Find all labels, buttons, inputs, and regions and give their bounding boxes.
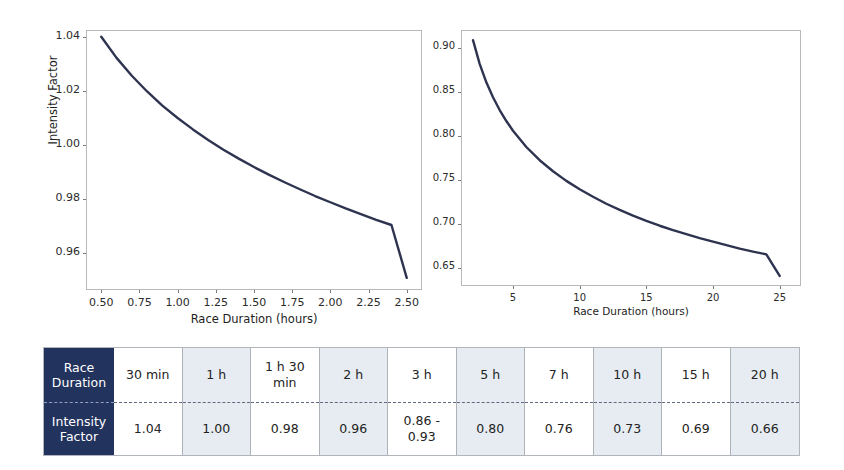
intensity-factor-table: Race DurationIntensity Factor30 min1.041… — [43, 347, 800, 456]
y-axis-title-left: Intensity Factor — [46, 40, 60, 160]
x-tick-mark — [178, 290, 179, 293]
cell-intensity-factor: 0.66 — [731, 402, 800, 456]
x-tick-mark — [646, 286, 647, 289]
x-tick-mark — [216, 290, 217, 293]
cell-intensity-factor: 0.98 — [251, 402, 319, 456]
x-tick-mark — [713, 286, 714, 289]
y-tick-mark — [83, 37, 86, 38]
cell-race-duration: 1 h 30 min — [251, 348, 319, 402]
x-axis-title-left: Race Duration (hours) — [86, 312, 422, 326]
table-column: 5 h0.80 — [457, 348, 526, 455]
long-duration-chart: 0.650.700.750.800.850.90510152025 Race D… — [430, 0, 844, 330]
x-tick-mark — [513, 286, 514, 289]
y-tick-mark — [458, 268, 461, 269]
y-tick-mark — [458, 48, 461, 49]
x-tick-mark — [780, 286, 781, 289]
cell-race-duration: 3 h — [388, 348, 456, 402]
y-tick-mark — [83, 145, 86, 146]
table-column: 2 h0.96 — [320, 348, 389, 455]
table-column: 3 h0.86 - 0.93 — [388, 348, 457, 455]
y-tick-label: 0.85 — [399, 84, 455, 95]
x-tick-mark — [254, 290, 255, 293]
y-tick-label: 0.70 — [399, 216, 455, 227]
table-column: 1 h 30 min0.98 — [251, 348, 320, 455]
table-column: 20 h0.66 — [731, 348, 800, 455]
cell-intensity-factor: 0.69 — [662, 402, 730, 456]
y-tick-label: 0.98 — [24, 191, 80, 204]
y-tick-label: 0.96 — [24, 245, 80, 258]
x-tick-mark — [292, 290, 293, 293]
y-tick-mark — [83, 199, 86, 200]
cell-intensity-factor: 1.00 — [183, 402, 251, 456]
table-row-header-column: Race DurationIntensity Factor — [44, 348, 114, 455]
y-tick-label: 0.65 — [399, 260, 455, 271]
x-tick-mark — [580, 286, 581, 289]
table-column: 15 h0.69 — [662, 348, 731, 455]
row-header-race-duration: Race Duration — [44, 348, 114, 402]
y-tick-label: 0.75 — [399, 172, 455, 183]
y-tick-mark — [458, 180, 461, 181]
cell-intensity-factor: 0.76 — [525, 402, 593, 456]
cell-race-duration: 2 h — [320, 348, 388, 402]
y-tick-label: 0.80 — [399, 128, 455, 139]
y-tick-label: 0.90 — [399, 40, 455, 51]
cell-race-duration: 20 h — [731, 348, 800, 402]
cell-intensity-factor: 0.80 — [457, 402, 525, 456]
cell-race-duration: 1 h — [183, 348, 251, 402]
intensity-curve-right — [461, 30, 801, 286]
x-tick-mark — [407, 290, 408, 293]
x-tick-mark — [101, 290, 102, 293]
cell-intensity-factor: 0.73 — [594, 402, 662, 456]
x-tick-mark — [369, 290, 370, 293]
table-column: 30 min1.04 — [114, 348, 183, 455]
cell-intensity-factor: 1.04 — [114, 402, 182, 456]
y-tick-mark — [458, 92, 461, 93]
cell-race-duration: 7 h — [525, 348, 593, 402]
x-tick-mark — [330, 290, 331, 293]
short-duration-chart: 0.960.981.001.021.040.500.751.001.251.50… — [0, 0, 440, 330]
table-column: 7 h0.76 — [525, 348, 594, 455]
table-column: 1 h1.00 — [183, 348, 252, 455]
row-header-intensity-factor: Intensity Factor — [44, 402, 114, 456]
y-tick-mark — [83, 91, 86, 92]
intensity-curve-left — [86, 30, 422, 290]
table-column: 10 h0.73 — [594, 348, 663, 455]
cell-race-duration: 10 h — [594, 348, 662, 402]
cell-intensity-factor: 0.86 - 0.93 — [388, 402, 456, 456]
x-tick-label: 25 — [740, 292, 820, 303]
cell-race-duration: 5 h — [457, 348, 525, 402]
y-tick-mark — [458, 136, 461, 137]
y-tick-mark — [458, 224, 461, 225]
y-tick-mark — [83, 253, 86, 254]
x-tick-mark — [139, 290, 140, 293]
cell-race-duration: 30 min — [114, 348, 182, 402]
x-axis-title-right: Race Duration (hours) — [461, 305, 801, 317]
cell-intensity-factor: 0.96 — [320, 402, 388, 456]
cell-race-duration: 15 h — [662, 348, 730, 402]
